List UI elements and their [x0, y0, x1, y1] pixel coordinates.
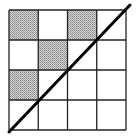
shaded-cell	[9, 70, 38, 100]
shaded-cell	[38, 40, 67, 70]
shaded-cell	[68, 10, 97, 40]
shaded-cell	[9, 10, 38, 40]
grid-diagram	[0, 0, 137, 136]
